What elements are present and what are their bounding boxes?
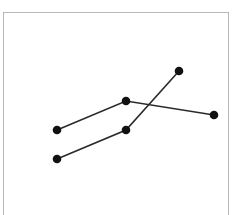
series-line-a — [57, 101, 214, 130]
data-point-marker — [122, 97, 131, 106]
data-point-marker — [175, 67, 184, 76]
data-point-marker — [53, 126, 62, 135]
data-point-marker — [122, 126, 131, 135]
data-point-marker — [53, 155, 62, 164]
line-plot — [0, 0, 232, 215]
data-point-marker — [210, 111, 219, 120]
series-line-b — [57, 71, 179, 159]
